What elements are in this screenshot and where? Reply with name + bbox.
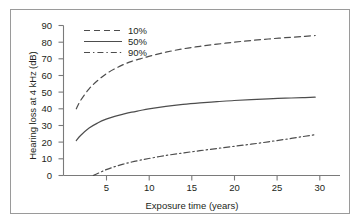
x-tick-label-25: 25 <box>266 182 288 193</box>
legend-label-50: 50% <box>128 36 147 47</box>
x-tick-label-15: 15 <box>181 182 203 193</box>
y-axis-ticks <box>59 26 64 176</box>
legend-label-90: 90% <box>128 47 147 58</box>
y-tick-label-90: 90 <box>30 20 52 31</box>
x-tick-label-20: 20 <box>224 182 246 193</box>
legend-label-10: 10% <box>128 25 147 36</box>
x-axis-ticks <box>107 176 320 181</box>
x-tick-label-10: 10 <box>138 182 160 193</box>
axes <box>64 26 341 176</box>
series-line-90pct <box>93 135 315 176</box>
y-axis-title: Hearing loss at 4 kHz (dB) <box>27 31 38 181</box>
chart-figure: 90 80 70 60 50 40 30 20 10 0 5 10 15 20 … <box>0 0 363 224</box>
x-axis-title: Exposure time (years) <box>63 200 321 211</box>
x-tick-label-30: 30 <box>309 182 331 193</box>
series-line-50pct <box>76 97 315 140</box>
x-tick-label-5: 5 <box>96 182 118 193</box>
plot-area: 90 80 70 60 50 40 30 20 10 0 5 10 15 20 … <box>0 0 363 224</box>
legend-swatches <box>84 31 122 53</box>
data-series-group <box>76 36 315 176</box>
